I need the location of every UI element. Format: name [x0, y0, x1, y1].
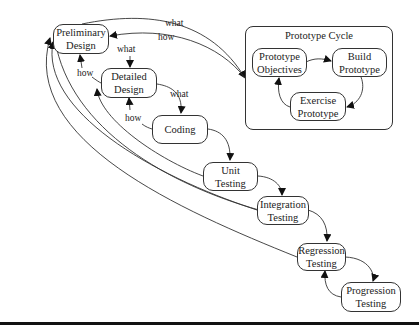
node-label: Integration Testing	[260, 198, 306, 224]
edge-label-how: how	[125, 113, 141, 123]
node-exercise-prototype[interactable]: Exercise Prototype	[290, 92, 346, 121]
edge-label-what: what	[117, 44, 135, 54]
node-label: Preliminary Design	[56, 26, 106, 52]
node-build-prototype[interactable]: Build Prototype	[332, 48, 387, 77]
edge-label-what: what	[170, 89, 188, 99]
node-label: Regression Testing	[298, 244, 345, 270]
node-detailed-design[interactable]: Detailed Design	[101, 68, 157, 98]
node-regression-testing[interactable]: Regression Testing	[297, 243, 346, 271]
node-label: Unit Testing	[215, 164, 246, 190]
node-unit-testing[interactable]: Unit Testing	[203, 162, 258, 191]
node-label: Exercise Prototype	[298, 94, 339, 120]
edge-label-how: how	[77, 68, 93, 78]
node-label: Coding	[165, 123, 196, 136]
node-label: Detailed Design	[111, 70, 147, 96]
node-prototype-objectives[interactable]: Prototype Objectives	[252, 48, 307, 77]
prototype-cycle-title: Prototype Cycle	[245, 30, 393, 41]
node-label: Prototype Objectives	[257, 50, 302, 76]
edge-label-what: what	[165, 18, 183, 28]
node-integration-testing[interactable]: Integration Testing	[257, 196, 309, 225]
node-progression-testing[interactable]: Progression Testing	[341, 282, 401, 312]
node-coding[interactable]: Coding	[152, 115, 208, 144]
node-label: Build Prototype	[339, 50, 380, 76]
node-preliminary-design[interactable]: Preliminary Design	[53, 24, 109, 54]
node-label: Progression Testing	[346, 284, 396, 310]
edge-label-how: how	[158, 32, 174, 42]
bottom-divider	[0, 322, 419, 325]
